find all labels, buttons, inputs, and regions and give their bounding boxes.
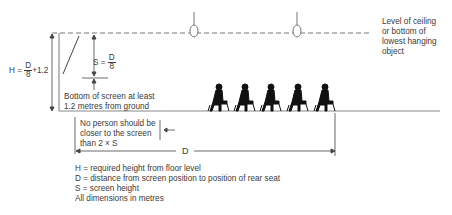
height-formula: H = D8+1.2	[9, 62, 48, 79]
ceiling-label: Level of ceiling or bottom of lowest han…	[382, 17, 437, 57]
min-distance-note: No person should be closer to the screen…	[80, 119, 156, 149]
screen-bottom-note: Bottom of screen at least 1.2 metres fro…	[64, 92, 155, 112]
distance-label: D	[182, 146, 189, 156]
screen-icon	[63, 36, 79, 74]
height-arrow	[50, 34, 54, 111]
audience-silhouettes	[208, 84, 335, 111]
hanging-light-icon	[293, 12, 301, 37]
legend: H = required height from floor level D =…	[75, 164, 280, 204]
hanging-light-icon	[190, 12, 198, 37]
screen-formula: S = D8	[93, 54, 116, 71]
